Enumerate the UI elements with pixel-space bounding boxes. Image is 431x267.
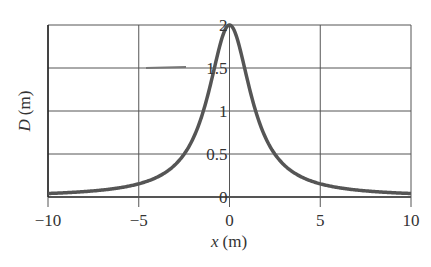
svg-text:1: 1 [219,102,228,121]
chart: 00.511.52 −10−50510 x(m) D(m) [0,0,431,267]
grid-lines [48,25,411,207]
svg-text:−5: −5 [130,211,148,230]
y-axis-label: D(m) [15,91,34,133]
svg-text:1.5: 1.5 [206,59,227,78]
svg-text:0: 0 [219,188,228,207]
x-axis-label: x(m) [210,232,247,251]
svg-text:−10: −10 [35,211,62,230]
x-tick-labels: −10−50510 [35,211,420,230]
svg-text:0.5: 0.5 [206,145,227,164]
svg-text:0: 0 [225,211,234,230]
legend-dash [146,67,186,68]
svg-text:5: 5 [316,211,325,230]
svg-text:2: 2 [219,16,228,35]
svg-text:10: 10 [403,211,420,230]
